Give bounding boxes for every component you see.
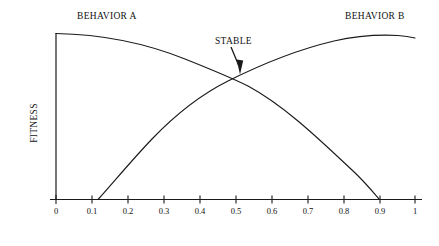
series-label-behavior-a: BEHAVIOR A xyxy=(77,11,137,21)
stable-annotation-label: STABLE xyxy=(215,36,252,46)
y-axis-label: FITNESS xyxy=(29,83,39,163)
x-tick-label-5: 0.5 xyxy=(224,206,248,216)
x-tick-label-6: 0.6 xyxy=(260,206,284,216)
x-tick-label-1: 0.1 xyxy=(80,206,104,216)
x-tick-label-2: 0.2 xyxy=(116,206,140,216)
series-label-behavior-b: BEHAVIOR B xyxy=(345,11,405,21)
x-tick-label-9: 0.9 xyxy=(368,206,392,216)
x-tick-label-4: 0.4 xyxy=(188,206,212,216)
x-tick-label-3: 0.3 xyxy=(152,206,176,216)
stable-arrow-icon xyxy=(231,47,243,75)
curve-behavior-a xyxy=(56,34,380,200)
x-tick-label-8: 0.8 xyxy=(332,206,356,216)
x-tick-label-7: 0.7 xyxy=(296,206,320,216)
fitness-behavior-chart: BEHAVIOR A BEHAVIOR B STABLE FITNESS 0 0… xyxy=(0,0,439,246)
x-tick-label-10: 1 xyxy=(403,206,427,216)
curve-behavior-b xyxy=(98,35,415,199)
x-tick-label-0: 0 xyxy=(44,206,68,216)
